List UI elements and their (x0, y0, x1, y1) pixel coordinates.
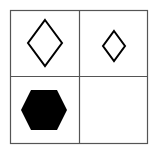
filled-hexagon-icon (21, 90, 67, 130)
large-diamond-outline-icon (28, 20, 62, 66)
small-diamond-outline-icon (103, 31, 125, 61)
shape-grid-diagram (0, 0, 159, 158)
